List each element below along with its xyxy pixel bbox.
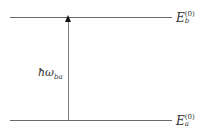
transition-label-main: ħω: [38, 66, 54, 79]
upper-level-label: E(0)b: [176, 11, 195, 25]
transition-arrow-shaft: [68, 21, 69, 120]
lower-level-symbol: E: [176, 114, 185, 128]
upper-level-symbol: E: [176, 11, 185, 25]
lower-level-subscript: a: [185, 121, 195, 128]
lower-energy-level-line: [10, 120, 172, 121]
lower-level-label: E(0)a: [176, 114, 195, 128]
upper-level-subscript: b: [185, 18, 195, 25]
transition-label: ħωba: [38, 66, 63, 81]
upper-energy-level-line: [10, 17, 172, 18]
arrow-up-icon: [65, 15, 71, 22]
transition-label-sub: ba: [54, 73, 63, 81]
